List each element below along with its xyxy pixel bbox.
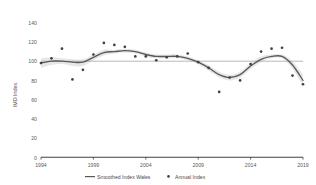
data-point [103, 42, 106, 45]
legend-label-smoothed: Smoothed Index Wales [97, 174, 151, 180]
y-tick-140: 140 [28, 20, 37, 26]
x-tick-1999: 1999 [88, 162, 100, 168]
line-chart: 140 120 100 80 60 40 20 0 IMD Index 1994… [0, 0, 316, 185]
y-axis-tick-labels: 140 120 100 80 60 40 20 0 [28, 20, 37, 161]
y-tick-20: 20 [31, 135, 37, 141]
data-point [281, 46, 284, 49]
data-point [291, 74, 294, 77]
data-point [144, 55, 147, 58]
data-point [260, 50, 263, 53]
data-point [82, 68, 85, 71]
y-axis-title: IMD Index [12, 82, 18, 107]
y-tick-120: 120 [28, 39, 37, 45]
data-point [40, 62, 43, 65]
data-point [228, 76, 231, 79]
y-tick-40: 40 [31, 116, 37, 122]
y-tick-60: 60 [31, 97, 37, 103]
data-point [302, 83, 305, 86]
x-tick-2019: 2019 [297, 162, 309, 168]
annual-index-points [40, 42, 305, 94]
data-point [71, 78, 74, 81]
x-axis-tick-labels: 1994 1999 2004 2009 2014 2019 [35, 162, 309, 168]
data-point [186, 52, 189, 55]
data-point [218, 91, 221, 94]
x-tick-2014: 2014 [245, 162, 257, 168]
data-point [270, 47, 273, 50]
x-tick-1994: 1994 [35, 162, 47, 168]
data-point [61, 47, 64, 50]
x-tick-2004: 2004 [140, 162, 152, 168]
x-tick-2009: 2009 [192, 162, 204, 168]
chart-legend: Smoothed Index Wales Annual Index [85, 174, 206, 180]
legend-dot-swatch [167, 175, 170, 178]
data-point [197, 61, 200, 64]
data-point [113, 44, 116, 47]
y-tick-80: 80 [31, 78, 37, 84]
data-point [165, 56, 168, 59]
data-point [155, 59, 158, 62]
chart-container: 140 120 100 80 60 40 20 0 IMD Index 1994… [0, 0, 316, 185]
data-point [207, 67, 210, 70]
legend-label-annual: Annual Index [175, 174, 206, 180]
data-point [239, 79, 242, 82]
y-tick-100: 100 [28, 58, 37, 64]
data-point [50, 57, 53, 60]
confidence-band [41, 49, 303, 86]
y-tick-0: 0 [34, 155, 37, 161]
data-point [134, 55, 137, 58]
data-point [92, 53, 95, 56]
data-point [249, 63, 252, 66]
data-point [123, 45, 126, 48]
data-point [176, 55, 179, 58]
